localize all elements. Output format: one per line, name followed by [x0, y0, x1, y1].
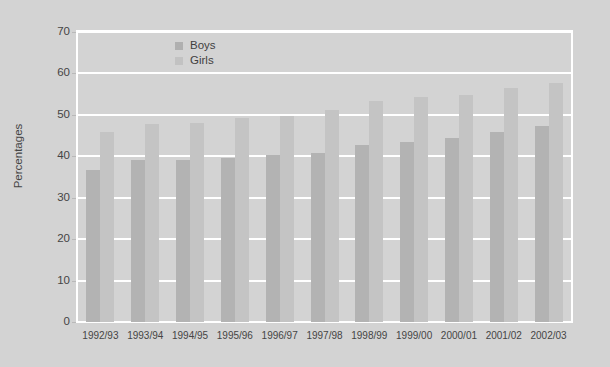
legend-label-boys: Boys [190, 40, 216, 52]
bar-girls-1995-96 [235, 118, 249, 322]
bar-girls-1998-99 [369, 101, 383, 322]
x-axis-tick-label: 1993/94 [123, 331, 168, 341]
bar-girls-1993-94 [145, 124, 159, 322]
y-axis-tick-label: 70 [38, 26, 70, 38]
y-axis-tick-label: 20 [38, 233, 70, 245]
bar-boys-1999-00 [400, 142, 414, 322]
bar-boys-1993-94 [131, 160, 145, 322]
x-axis-tick-label: 1994/95 [168, 331, 213, 341]
bar-boys-1996-97 [266, 155, 280, 322]
bar-boys-2000-01 [445, 138, 459, 322]
bar-girls-1992-93 [100, 132, 114, 322]
bar-boys-2002-03 [535, 126, 549, 322]
bar-girls-2002-03 [549, 83, 563, 322]
x-axis-tick-label: 2002/03 [526, 331, 571, 341]
bar-boys-1992-93 [86, 170, 100, 322]
bar-boys-1995-96 [221, 158, 235, 322]
bar-girls-1996-97 [280, 116, 294, 322]
gridline [78, 31, 571, 33]
chart-legend: Boys Girls [175, 38, 216, 68]
bar-girls-2001-02 [504, 88, 518, 322]
gridline [78, 72, 571, 74]
bar-boys-2001-02 [490, 132, 504, 322]
legend-label-girls: Girls [190, 55, 214, 67]
bar-girls-1994-95 [190, 123, 204, 322]
x-axis-tick-label: 1995/96 [212, 331, 257, 341]
bar-girls-1999-00 [414, 97, 428, 322]
y-axis-tick-label: 50 [38, 109, 70, 121]
x-axis-tick-label: 1996/97 [257, 331, 302, 341]
x-axis-tick-label: 1998/99 [347, 331, 392, 341]
x-axis-tick-label: 1997/98 [302, 331, 347, 341]
y-axis-tick-label: 10 [38, 275, 70, 287]
x-axis-tick-label: 2001/02 [481, 331, 526, 341]
y-axis-tick-label: 0 [38, 316, 70, 328]
x-axis-tick-label: 1999/00 [392, 331, 437, 341]
legend-swatch-girls-icon [175, 57, 183, 65]
x-axis-tick-label: 1992/93 [78, 331, 123, 341]
bar-boys-1998-99 [355, 145, 369, 322]
legend-item-boys: Boys [175, 38, 216, 53]
y-axis-tick-label: 30 [38, 192, 70, 204]
bar-boys-1997-98 [311, 153, 325, 322]
bar-boys-1994-95 [176, 160, 190, 322]
legend-swatch-boys-icon [175, 42, 183, 50]
y-axis-tick-label: 40 [38, 150, 70, 162]
legend-item-girls: Girls [175, 53, 216, 68]
y-axis-tick-label: 60 [38, 67, 70, 79]
y-axis-title: Percentages [12, 76, 24, 236]
bar-girls-2000-01 [459, 95, 473, 322]
bar-girls-1997-98 [325, 110, 339, 322]
plot-area [78, 32, 571, 322]
chart-figure: 010203040506070 Percentages 1992/931993/… [0, 0, 610, 367]
x-axis-tick-label: 2000/01 [437, 331, 482, 341]
